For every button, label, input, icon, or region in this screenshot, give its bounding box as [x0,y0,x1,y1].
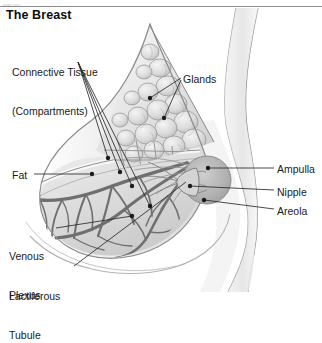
label-glands: Glands [183,73,216,86]
label-lactiferous-tubule-line2: Tubule [9,329,60,342]
label-connective-tissue-line1: Connective Tissue [12,66,98,79]
label-connective-tissue: Connective Tissue (Compartments) [12,40,98,144]
label-venous-plexus-line1: Venous [9,250,44,263]
label-connective-tissue-line2: (Compartments) [12,105,98,118]
label-lactiferous-tubule: Lactiferous Tubule [9,264,60,343]
torso-silhouette [196,8,322,292]
label-ampulla: Ampulla [277,163,315,176]
label-lactiferous-tubule-line1: Lactiferous [9,290,60,303]
label-fat: Fat [12,169,27,182]
label-areola: Areola [277,205,307,218]
label-nipple: Nipple [277,186,307,199]
